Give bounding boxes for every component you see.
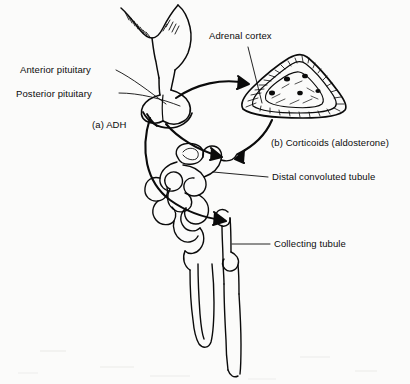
arrow-pituitary-to-adrenal bbox=[176, 76, 249, 98]
diagram-canvas: Anterior pituitary Posterior pituitary (… bbox=[0, 0, 410, 384]
adrenal-medulla-texture bbox=[272, 81, 318, 104]
diagram-artwork bbox=[0, 0, 410, 384]
label-collecting-tubule: Collecting tubule bbox=[274, 239, 346, 249]
hypothalamus bbox=[121, 5, 191, 78]
hypothalamus-hatching bbox=[125, 12, 179, 37]
arrow-adrenal-to-tubule bbox=[235, 120, 272, 163]
adrenal-medulla-spots bbox=[269, 74, 321, 96]
label-adrenal-cortex: Adrenal cortex bbox=[209, 31, 272, 41]
collecting-tubule bbox=[215, 210, 241, 377]
loop-of-henle bbox=[190, 264, 214, 347]
leader-distal-convoluted-tubule bbox=[213, 172, 268, 177]
label-distal-convoluted-tubule: Distal convoluted tubule bbox=[272, 172, 375, 182]
label-corticoids: (b) Corticoids (aldosterone) bbox=[271, 138, 389, 148]
label-posterior-pituitary: Posterior pituitary bbox=[16, 89, 92, 99]
label-adh: (a) ADH bbox=[92, 120, 126, 130]
arrow-posterior-pituitary-to-tubule bbox=[166, 124, 222, 160]
label-anterior-pituitary: Anterior pituitary bbox=[20, 65, 91, 75]
